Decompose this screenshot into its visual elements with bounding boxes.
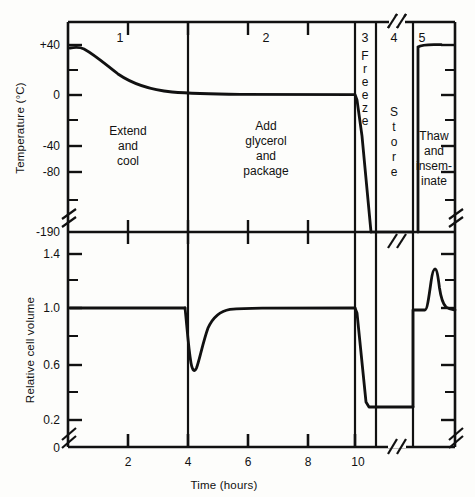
volume-tick-label-1p4: 1.4 xyxy=(43,247,60,261)
store-char-r: r xyxy=(392,150,396,164)
temp-tick-label-neg80: -80 xyxy=(43,165,61,179)
temp-tick-label-neg190: -190 xyxy=(36,225,60,239)
temp-tick-label-0: 0 xyxy=(53,88,60,102)
x-tick-label-6: 6 xyxy=(245,455,252,469)
temperature-axis-title: Temperature (°C) xyxy=(14,82,26,174)
figure-svg: 1 2 3 4 5 Extend and cool Add glycerol a… xyxy=(0,0,475,497)
freeze-char-z: z xyxy=(362,101,368,115)
freeze-char-e3: e xyxy=(362,114,369,128)
phase-label-thaw-and-inseminate: Thaw and insem- inate xyxy=(416,129,452,188)
x-tick-label-10: 10 xyxy=(351,455,365,469)
phase-number-5: 5 xyxy=(419,31,426,45)
x-tick-label-2: 2 xyxy=(125,455,132,469)
phase-number-2: 2 xyxy=(263,31,270,45)
phase-number-3: 3 xyxy=(362,31,369,45)
time-axis-title: Time (hours) xyxy=(190,479,257,491)
temp-tick-label-40: +40 xyxy=(40,38,61,52)
store-char-S: S xyxy=(390,105,398,119)
phase-number-4: 4 xyxy=(391,31,398,45)
cell-volume-axis-title: Relative cell volume xyxy=(24,297,36,403)
cryopreservation-figure: 1 2 3 4 5 Extend and cool Add glycerol a… xyxy=(0,0,475,497)
phase1-line-3: cool xyxy=(117,154,139,168)
volume-tick-label-0: 0 xyxy=(53,441,60,455)
phase1-line-2: and xyxy=(118,139,138,153)
phase5-line-2: and xyxy=(424,144,444,158)
top-panel-x-axis-break xyxy=(388,14,406,28)
temp-tick-label-neg40: -40 xyxy=(43,139,61,153)
phase2-line-1: Add xyxy=(255,119,276,133)
volume-tick-label-1p0: 1.0 xyxy=(43,301,60,315)
figure-background xyxy=(0,0,475,497)
phase5-line-1: Thaw xyxy=(419,129,449,143)
phase2-line-3: and xyxy=(256,149,276,163)
phase-label-store: S t o r e xyxy=(390,105,398,179)
phase2-line-2: glycerol xyxy=(245,134,286,148)
volume-tick-label-0p6: 0.6 xyxy=(43,358,60,372)
phase2-line-4: package xyxy=(243,164,289,178)
x-tick-label-4: 4 xyxy=(185,455,192,469)
x-tick-label-8: 8 xyxy=(305,455,312,469)
phase5-line-4: inate xyxy=(421,174,447,188)
store-char-o: o xyxy=(391,135,398,149)
store-char-e: e xyxy=(391,165,398,179)
phase-label-freeze: F r e e z e xyxy=(361,49,368,128)
freeze-char-r: r xyxy=(363,62,367,76)
freeze-char-e1: e xyxy=(362,75,369,89)
freeze-char-e2: e xyxy=(362,88,369,102)
volume-tick-label-0p2: 0.2 xyxy=(43,413,60,427)
phase-number-1: 1 xyxy=(117,31,124,45)
freeze-char-F: F xyxy=(361,49,368,63)
phase1-line-1: Extend xyxy=(109,124,146,138)
phase5-line-3: insem- xyxy=(416,159,452,173)
